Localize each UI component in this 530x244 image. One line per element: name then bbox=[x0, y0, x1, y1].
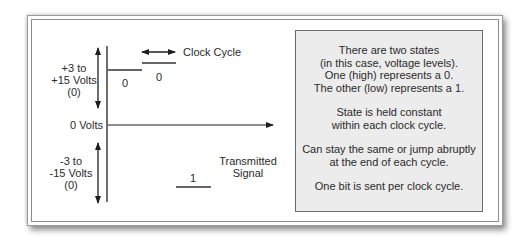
signal-label-line-1: Transmitted bbox=[213, 155, 283, 167]
low-voltage-line-3: (0) bbox=[47, 179, 95, 191]
explanation-line: One bit is sent per clock cycle. bbox=[296, 180, 482, 193]
explanation-line: State is held constant bbox=[296, 106, 482, 119]
bit-value-2: 0 bbox=[153, 71, 165, 83]
explanation-line: The other (low) represents a 1. bbox=[296, 82, 482, 95]
explanation-box: There are two states (in this case, volt… bbox=[295, 30, 483, 212]
transmitted-signal-label: Transmitted Signal bbox=[213, 155, 283, 179]
bit-value-1: 0 bbox=[119, 77, 131, 89]
low-voltage-line-1: -3 to bbox=[47, 155, 95, 167]
signal-label-line-2: Signal bbox=[213, 167, 283, 179]
explanation-line: (in this case, voltage levels). bbox=[296, 57, 482, 70]
low-voltage-line-2: -15 Volts bbox=[47, 167, 95, 179]
high-voltage-line-1: +3 to bbox=[50, 62, 98, 74]
explanation-line: within each clock cycle. bbox=[296, 119, 482, 132]
explanation-line: Can stay the same or jump abruptly bbox=[296, 143, 482, 156]
high-voltage-line-3: (0) bbox=[50, 86, 98, 98]
explanation-paragraph-states: There are two states (in this case, volt… bbox=[296, 44, 482, 94]
high-voltage-label: +3 to +15 Volts (0) bbox=[50, 62, 98, 98]
low-voltage-label: -3 to -15 Volts (0) bbox=[47, 155, 95, 191]
bit-value-3: 1 bbox=[187, 172, 199, 184]
explanation-paragraph-constant: State is held constant within each clock… bbox=[296, 106, 482, 131]
clock-cycle-label: Clock Cycle bbox=[183, 46, 241, 58]
explanation-line: at the end of each cycle. bbox=[296, 156, 482, 169]
explanation-line: There are two states bbox=[296, 44, 482, 57]
explanation-line: One (high) represents a 0. bbox=[296, 69, 482, 82]
high-voltage-line-2: +15 Volts bbox=[50, 74, 98, 86]
explanation-paragraph-bit-rate: One bit is sent per clock cycle. bbox=[296, 180, 482, 193]
explanation-paragraph-jump: Can stay the same or jump abruptly at th… bbox=[296, 143, 482, 168]
zero-volts-label: 0 Volts bbox=[55, 119, 103, 131]
